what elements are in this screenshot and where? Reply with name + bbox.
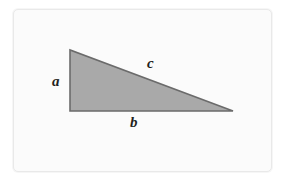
figure-root: a c b [0,0,285,182]
triangle-graphic [0,0,285,182]
side-label-a: a [52,74,60,89]
side-label-b: b [130,115,138,130]
side-label-c: c [147,56,154,71]
